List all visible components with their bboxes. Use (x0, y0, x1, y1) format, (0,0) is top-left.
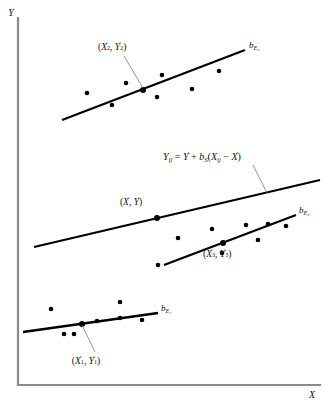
data-point (256, 238, 261, 243)
group-1-leader-line (82, 325, 95, 352)
x-axis-label: X (308, 389, 316, 400)
equation-leader-line (253, 165, 267, 193)
data-point (62, 332, 67, 337)
group-1-regression-line (23, 313, 158, 332)
group-3-centroid-label: (X̄3, Ȳ3) (203, 249, 231, 260)
grand-mean-equation: Yij = Ȳ + bS(Xij − X̄) (163, 151, 241, 163)
data-point (140, 318, 145, 323)
group-2-line-label: bE₂ (249, 40, 259, 51)
data-point (156, 263, 161, 268)
axes-group (18, 18, 320, 385)
data-point (118, 316, 123, 321)
data-point (176, 236, 181, 241)
group-3: (X̄3, Ȳ3) bE₃ (156, 205, 310, 267)
group-2: (X̄2, Ȳ2) bE₂ (62, 40, 259, 120)
data-point (118, 300, 123, 305)
group-3-line-label: bE₃ (299, 205, 309, 216)
data-point (244, 223, 249, 228)
grand-centroid-label: (X̄, Ȳ) (120, 197, 142, 208)
group-1: (X̄1, Ȳ1) bE₁ (23, 300, 171, 367)
grand-mean-group: (X̄, Ȳ) Yij = Ȳ + bS(Xij − X̄) (34, 151, 320, 247)
data-point (160, 73, 165, 78)
group-1-centroid-marker (79, 321, 85, 327)
y-axis-label: Y (8, 7, 15, 18)
data-point (266, 222, 271, 227)
data-point (110, 103, 115, 108)
group-3-centroid-marker (220, 240, 226, 246)
data-point (49, 307, 54, 312)
data-point (210, 227, 215, 232)
regression-diagram: Y X (X̄2, Ȳ2) bE₂ (X̄, Ȳ) (0, 0, 332, 410)
data-point (217, 69, 222, 74)
data-point (284, 224, 289, 229)
group-2-centroid-label: (X̄2, Ȳ2) (98, 42, 126, 53)
data-point (124, 81, 129, 86)
group-2-regression-line (62, 50, 245, 120)
data-point (85, 91, 90, 96)
group-1-line-label: bE₁ (161, 303, 171, 314)
group-1-centroid-label: (X̄1, Ȳ1) (72, 356, 100, 367)
data-point (95, 319, 100, 324)
group-2-scatter-points (85, 69, 222, 108)
data-point (155, 95, 160, 100)
data-point (190, 87, 195, 92)
grand-centroid-marker (154, 215, 160, 221)
data-point (72, 332, 77, 337)
